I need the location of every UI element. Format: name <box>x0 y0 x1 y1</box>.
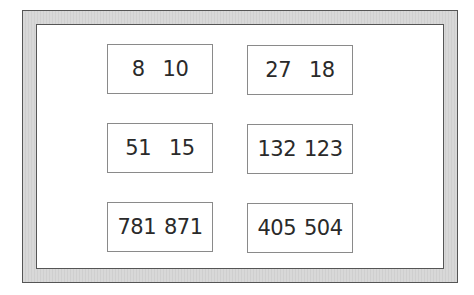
number-pair-box: 781 871 <box>107 202 213 252</box>
second-number: 504 <box>304 216 343 240</box>
second-number: 15 <box>169 136 195 160</box>
number-pair-box: 27 18 <box>247 45 353 95</box>
first-number: 405 <box>257 216 296 240</box>
first-number: 51 <box>125 136 151 160</box>
second-number: 10 <box>163 57 189 81</box>
number-pair-box: 405 504 <box>247 203 353 253</box>
number-pair-box: 51 15 <box>107 123 213 173</box>
number-pair-box: 132 123 <box>247 124 353 174</box>
number-pair-box: 8 10 <box>107 44 213 94</box>
frame-panel <box>36 24 444 269</box>
second-number: 18 <box>309 58 335 82</box>
first-number: 27 <box>265 58 291 82</box>
first-number: 132 <box>257 137 296 161</box>
first-number: 781 <box>117 215 156 239</box>
first-number: 8 <box>132 57 145 81</box>
picture-frame <box>22 10 458 283</box>
second-number: 123 <box>304 137 343 161</box>
second-number: 871 <box>164 215 203 239</box>
